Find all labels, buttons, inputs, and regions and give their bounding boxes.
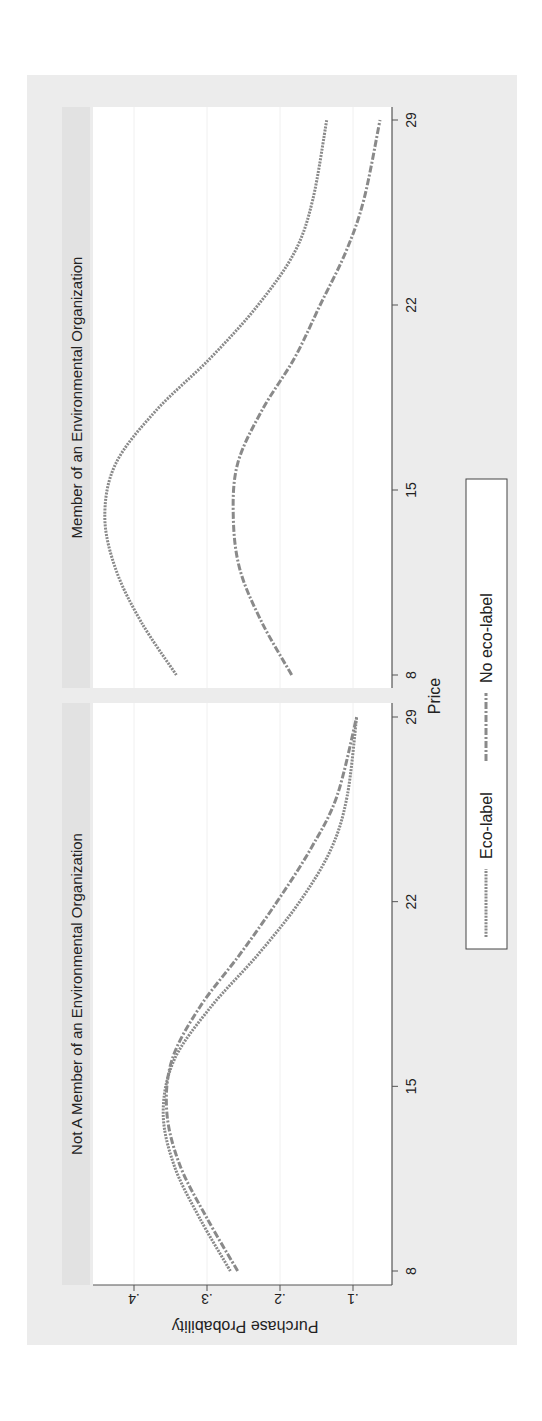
legend-no-eco-label: No eco-label <box>478 593 495 683</box>
x-tick-label: 15 <box>403 482 419 498</box>
x-tick-label: 29 <box>403 709 419 725</box>
y-tick-label: .4 <box>128 1291 140 1307</box>
panel-title: Member of an Environmental Organization <box>68 257 85 539</box>
y-tick-label: .3 <box>201 1291 213 1307</box>
plot-area <box>93 703 392 1285</box>
y-axis-title: Purchase Probability <box>172 1318 319 1335</box>
x-tick-label: 22 <box>403 894 419 910</box>
x-axis-title: Price <box>426 678 443 715</box>
panel-not-member: Not A Member of an Environmental Organiz… <box>62 703 419 1285</box>
x-tick-label: 22 <box>403 297 419 313</box>
panel-member: Member of an Environmental Organization8… <box>62 107 419 688</box>
x-tick-label: 8 <box>403 671 419 679</box>
x-tick-label: 29 <box>403 112 419 128</box>
x-tick-label: 15 <box>403 1078 419 1094</box>
y-tick-label: .1 <box>347 1291 359 1307</box>
panel-title: Not A Member of an Environmental Organiz… <box>68 833 85 1155</box>
x-tick-label: 8 <box>403 1267 419 1275</box>
rotated-figure: Not A Member of an Environmental Organiz… <box>27 75 517 1345</box>
legend-eco-label: Eco-label <box>478 792 495 859</box>
legend: Eco-label No eco-label <box>466 479 507 949</box>
chart-figure: Not A Member of an Environmental Organiz… <box>0 0 542 1421</box>
plot-area <box>93 107 392 688</box>
y-tick-label: .2 <box>274 1291 286 1307</box>
